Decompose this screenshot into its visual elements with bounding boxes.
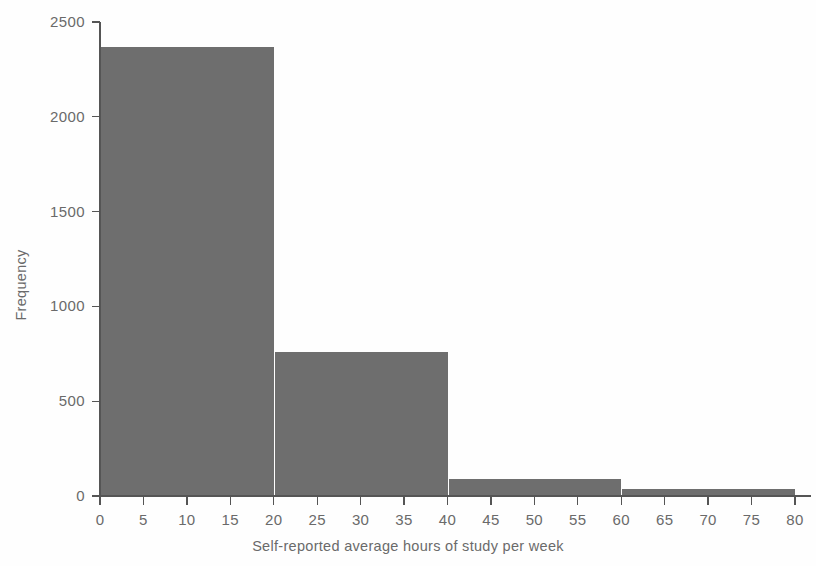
- y-tick-label: 0: [76, 487, 85, 504]
- histogram-bar: [101, 47, 274, 496]
- x-tick-label: 55: [569, 511, 587, 528]
- chart-canvas: 05001000150020002500 0510152025303540455…: [0, 0, 816, 566]
- x-tick-label: 15: [222, 511, 240, 528]
- y-tick-label: 500: [59, 392, 85, 409]
- x-tick-label: 50: [526, 511, 544, 528]
- bar-series: [101, 47, 795, 496]
- x-tick-label: 70: [699, 511, 717, 528]
- x-tick-label: 25: [308, 511, 326, 528]
- x-tick-label: 60: [613, 511, 631, 528]
- y-tick-label: 1000: [50, 297, 85, 314]
- x-tick-label: 20: [265, 511, 283, 528]
- histogram-bar: [449, 479, 622, 496]
- histogram-bar: [622, 489, 795, 496]
- y-axis-title: Frequency: [13, 249, 29, 321]
- x-tick-label: 35: [395, 511, 413, 528]
- x-tick-label: 75: [743, 511, 761, 528]
- y-tick-label: 2500: [50, 13, 85, 30]
- x-tick-label: 30: [352, 511, 370, 528]
- histogram-figure: 05001000150020002500 0510152025303540455…: [0, 0, 816, 566]
- x-tick-label: 40: [439, 511, 457, 528]
- x-tick-label: 5: [139, 511, 148, 528]
- x-tick-label: 10: [178, 511, 196, 528]
- x-tick-label: 80: [786, 511, 804, 528]
- x-tick-label: 0: [96, 511, 105, 528]
- y-tick-label: 2000: [50, 108, 85, 125]
- x-axis-ticks: 05101520253035404550556065707580: [96, 496, 804, 528]
- y-axis-ticks: 05001000150020002500: [50, 13, 100, 504]
- y-tick-label: 1500: [50, 203, 85, 220]
- x-axis-title: Self-reported average hours of study per…: [252, 538, 564, 554]
- x-tick-label: 65: [656, 511, 674, 528]
- histogram-bar: [275, 352, 448, 496]
- x-tick-label: 45: [482, 511, 500, 528]
